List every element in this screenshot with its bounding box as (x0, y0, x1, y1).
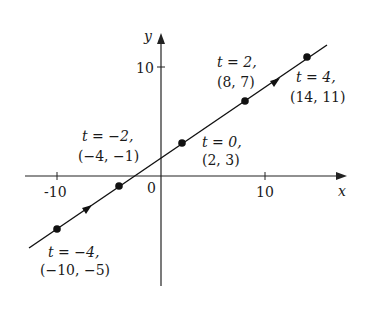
parametric-line-diagram: y x 10 -10 10 0 t = −4, (−10, −5) t = −2… (0, 0, 367, 314)
coord-t-4: (14, 11) (290, 89, 345, 105)
x-axis-label: x (338, 183, 346, 199)
point-t-4 (303, 53, 311, 61)
coord-t-neg2: (−4, −1) (78, 148, 139, 164)
point-t-0 (178, 139, 186, 147)
parametric-line (29, 45, 327, 248)
label-t-neg4: t = −4, (48, 244, 99, 260)
y-tick-label-10: 10 (136, 60, 154, 76)
origin-label: 0 (147, 180, 156, 196)
direction-arrow-icon (270, 78, 280, 87)
label-t-neg2: t = −2, (82, 128, 133, 144)
x-axis-arrow-icon (336, 172, 347, 180)
coord-t-neg4: (−10, −5) (40, 262, 110, 278)
y-axis-arrow-icon (157, 33, 165, 44)
coord-t-2: (8, 7) (217, 74, 255, 90)
y-axis-label: y (144, 28, 152, 44)
point-t-2 (241, 97, 249, 105)
label-t-0: t = 0, (202, 134, 242, 150)
coord-t-0: (2, 3) (202, 152, 240, 168)
label-t-4: t = 4, (296, 69, 336, 85)
x-tick-label-neg10: -10 (44, 184, 67, 200)
direction-arrow-icon (82, 205, 92, 214)
point-t-neg2 (115, 182, 123, 190)
label-t-2: t = 2, (217, 54, 257, 70)
point-t-neg4 (53, 225, 61, 233)
x-tick-label-10: 10 (256, 184, 274, 200)
